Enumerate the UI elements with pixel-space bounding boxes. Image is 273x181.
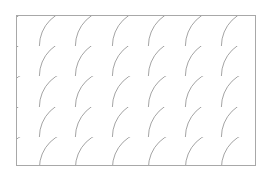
scale-tile [258, 39, 273, 76]
scale-arc [258, 131, 273, 168]
scale-tile [258, 131, 273, 168]
scale-tile [258, 9, 273, 46]
scale-arc [258, 39, 273, 76]
scale-arc [258, 100, 273, 137]
scale-tile [221, 9, 273, 46]
scale-tile [258, 70, 273, 107]
scale-tiles [0, 9, 273, 168]
scale-arc [258, 70, 273, 107]
scale-arc [258, 9, 273, 46]
fish-scale-pattern [0, 0, 273, 181]
scale-tile [258, 100, 273, 137]
